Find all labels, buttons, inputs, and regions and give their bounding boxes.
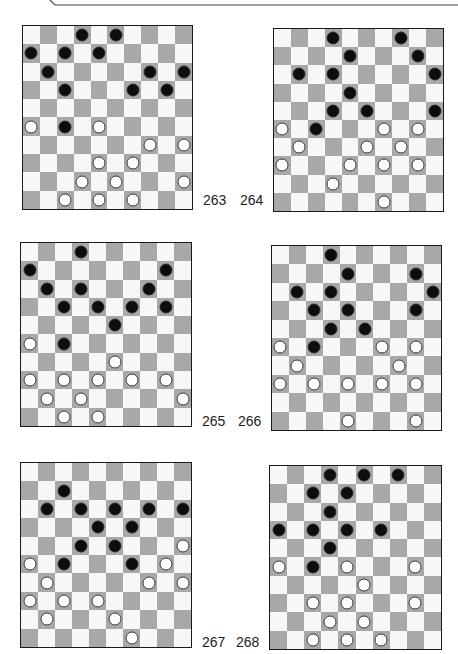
dark-square xyxy=(157,629,174,647)
light-square xyxy=(356,375,373,393)
light-square xyxy=(124,26,141,44)
dark-square xyxy=(424,356,441,374)
dark-square xyxy=(356,503,373,521)
light-square xyxy=(274,175,291,193)
dark-square xyxy=(124,81,141,99)
light-square xyxy=(308,138,325,156)
black-checker-piece xyxy=(177,65,190,78)
checkers-board-266 xyxy=(271,245,442,431)
dark-square xyxy=(323,356,340,374)
light-square xyxy=(21,573,38,591)
white-checker-piece xyxy=(76,175,89,188)
dark-square xyxy=(274,47,291,65)
light-square xyxy=(74,44,91,62)
dark-square xyxy=(373,375,390,393)
dark-square xyxy=(157,371,174,389)
dark-square xyxy=(141,99,158,117)
dark-square xyxy=(342,156,359,174)
light-square xyxy=(107,81,124,99)
white-checker-piece xyxy=(25,120,38,133)
white-checker-piece xyxy=(409,560,422,573)
dark-square xyxy=(270,557,287,575)
light-square xyxy=(89,573,106,591)
black-checker-piece xyxy=(176,502,189,515)
black-checker-piece xyxy=(23,264,36,277)
light-square xyxy=(407,283,424,301)
dark-square xyxy=(72,500,89,518)
light-square xyxy=(72,555,89,573)
light-square xyxy=(174,371,191,389)
white-checker-piece xyxy=(409,414,422,427)
light-square xyxy=(323,264,340,282)
dark-square xyxy=(407,375,424,393)
light-square xyxy=(373,466,390,484)
dark-square xyxy=(426,102,443,120)
white-checker-piece xyxy=(360,141,373,154)
dark-square xyxy=(21,481,38,499)
dark-square xyxy=(91,44,108,62)
dark-square xyxy=(123,371,140,389)
dark-square xyxy=(356,539,373,557)
dark-square xyxy=(21,555,38,573)
dark-square xyxy=(426,138,443,156)
dark-square xyxy=(38,573,55,591)
white-checker-piece xyxy=(23,558,36,571)
light-square xyxy=(107,154,124,172)
light-square xyxy=(157,573,174,591)
dark-square xyxy=(358,102,375,120)
light-square xyxy=(407,466,424,484)
dark-square xyxy=(424,503,441,521)
dark-square xyxy=(38,280,55,298)
dark-square xyxy=(141,172,158,190)
black-checker-piece xyxy=(325,322,338,335)
light-square xyxy=(72,518,89,536)
white-checker-piece xyxy=(91,594,104,607)
dark-square xyxy=(426,175,443,193)
dark-square xyxy=(291,102,308,120)
light-square xyxy=(409,29,426,47)
black-checker-piece xyxy=(375,524,388,537)
light-square xyxy=(174,481,191,499)
black-checker-piece xyxy=(57,337,70,350)
light-square xyxy=(373,612,390,630)
light-square xyxy=(407,356,424,374)
light-square xyxy=(158,136,175,154)
dark-square xyxy=(325,138,342,156)
light-square xyxy=(342,175,359,193)
light-square xyxy=(321,521,338,539)
dark-square xyxy=(373,521,390,539)
dark-square xyxy=(424,246,441,264)
dark-square xyxy=(287,539,304,557)
light-square xyxy=(55,353,72,371)
white-checker-piece xyxy=(91,374,104,387)
black-checker-piece xyxy=(293,68,306,81)
light-square xyxy=(38,555,55,573)
light-square xyxy=(321,594,338,612)
dark-square xyxy=(124,117,141,135)
black-checker-piece xyxy=(409,267,422,280)
black-checker-piece xyxy=(160,84,173,97)
dark-square xyxy=(287,576,304,594)
light-square xyxy=(287,521,304,539)
dark-square xyxy=(38,353,55,371)
light-square xyxy=(270,612,287,630)
white-checker-piece xyxy=(344,159,357,172)
black-checker-piece xyxy=(125,521,138,534)
dark-square xyxy=(141,136,158,154)
light-square xyxy=(174,555,191,573)
light-square xyxy=(358,156,375,174)
dark-square xyxy=(55,371,72,389)
dark-square xyxy=(325,102,342,120)
dark-square xyxy=(356,283,373,301)
dark-square xyxy=(38,243,55,261)
dark-square xyxy=(424,576,441,594)
white-checker-piece xyxy=(93,120,106,133)
dark-square xyxy=(174,500,191,518)
light-square xyxy=(407,246,424,264)
dark-square xyxy=(272,412,289,430)
white-checker-piece xyxy=(109,175,122,188)
light-square xyxy=(356,484,373,502)
dark-square xyxy=(306,338,323,356)
dark-square xyxy=(57,81,74,99)
dark-square xyxy=(340,264,357,282)
